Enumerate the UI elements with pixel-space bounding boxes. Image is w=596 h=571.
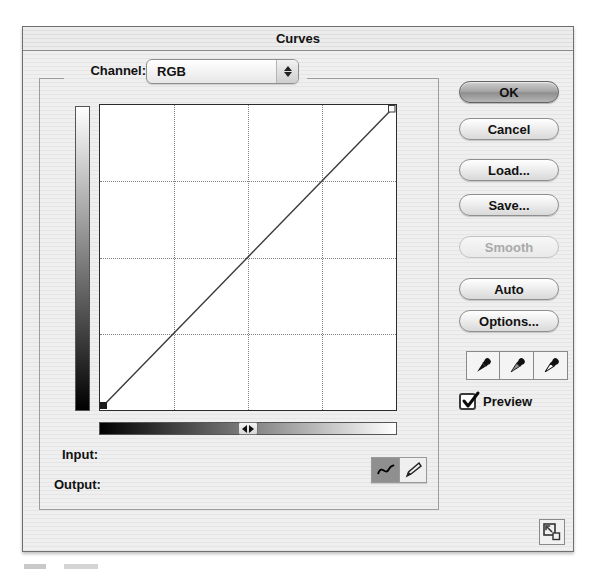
group-frame-bottom bbox=[39, 509, 439, 510]
left-arrow-icon bbox=[242, 425, 247, 433]
auto-button-label: Auto bbox=[494, 282, 524, 297]
channel-label: Channel: bbox=[69, 63, 146, 78]
tone-curve[interactable] bbox=[100, 105, 396, 410]
caption-smudge bbox=[24, 564, 46, 569]
arrow-up-icon bbox=[284, 66, 292, 71]
group-frame-top-right bbox=[307, 78, 439, 79]
dialog-title: Curves bbox=[276, 31, 320, 46]
save-button-label: Save... bbox=[488, 198, 529, 213]
curve-grid[interactable] bbox=[99, 104, 397, 411]
output-gradient-bar bbox=[75, 106, 90, 411]
curve-shadow-endpoint-handle bbox=[100, 402, 107, 409]
gray-point-eyedropper-icon bbox=[506, 355, 528, 377]
auto-button[interactable]: Auto bbox=[459, 278, 559, 300]
group-frame-left bbox=[39, 78, 40, 510]
curves-dialog: Curves Channel: RGB bbox=[22, 26, 574, 552]
black-point-eyedropper-button[interactable] bbox=[466, 351, 500, 380]
cropped-caption-fragment bbox=[24, 564, 98, 569]
white-point-eyedropper-icon bbox=[540, 355, 562, 377]
ok-button[interactable]: OK bbox=[459, 81, 559, 103]
input-label: Input: bbox=[62, 447, 98, 462]
load-button[interactable]: Load... bbox=[459, 159, 559, 181]
black-point-eyedropper-icon bbox=[472, 355, 494, 377]
grid-size-toggle-button[interactable] bbox=[539, 519, 565, 545]
cancel-button-label: Cancel bbox=[488, 122, 531, 137]
save-button[interactable]: Save... bbox=[459, 194, 559, 216]
output-label: Output: bbox=[54, 477, 101, 492]
load-button-label: Load... bbox=[488, 163, 530, 178]
pencil-icon bbox=[403, 461, 423, 479]
dialog-titlebar[interactable]: Curves bbox=[23, 27, 573, 51]
channel-popup-menu[interactable]: RGB bbox=[146, 59, 299, 84]
right-arrow-icon bbox=[249, 425, 254, 433]
preview-checkbox[interactable] bbox=[459, 393, 476, 410]
smooth-button: Smooth bbox=[459, 236, 559, 258]
ok-button-label: OK bbox=[499, 85, 519, 100]
pencil-tool-button[interactable] bbox=[399, 458, 426, 482]
caption-smudge bbox=[64, 564, 98, 569]
preview-label: Preview bbox=[483, 394, 532, 409]
options-button[interactable]: Options... bbox=[459, 310, 559, 332]
group-frame-top-left bbox=[39, 78, 64, 79]
point-curve-tool-button[interactable] bbox=[372, 458, 399, 482]
resize-toggle-icon bbox=[542, 522, 562, 542]
curve-tool-group bbox=[371, 457, 427, 483]
preview-row: Preview bbox=[459, 393, 532, 410]
gradient-flip-control[interactable] bbox=[238, 422, 258, 435]
checkmark-icon bbox=[460, 390, 482, 412]
options-button-label: Options... bbox=[479, 314, 539, 329]
white-point-eyedropper-button[interactable] bbox=[534, 351, 568, 380]
curve-tool-icon bbox=[376, 461, 396, 479]
smooth-button-label: Smooth bbox=[485, 240, 533, 255]
channel-popup-value: RGB bbox=[147, 64, 276, 79]
screenshot-canvas: Curves Channel: RGB bbox=[0, 0, 596, 571]
popup-up-down-arrows-icon bbox=[276, 60, 298, 83]
gray-point-eyedropper-button[interactable] bbox=[500, 351, 534, 380]
arrow-down-icon bbox=[284, 72, 292, 77]
input-gradient-bar bbox=[99, 422, 397, 435]
group-frame-right bbox=[438, 78, 439, 510]
curve-highlight-endpoint-handle bbox=[389, 106, 396, 113]
cancel-button[interactable]: Cancel bbox=[459, 118, 559, 140]
eyedropper-group bbox=[466, 351, 568, 380]
